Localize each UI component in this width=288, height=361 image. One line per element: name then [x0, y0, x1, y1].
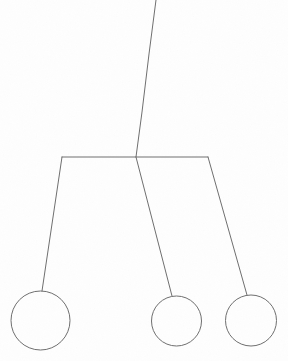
mobile-diagram-canvas — [0, 0, 288, 361]
figure-root — [0, 0, 288, 361]
diagram-background — [0, 0, 288, 361]
